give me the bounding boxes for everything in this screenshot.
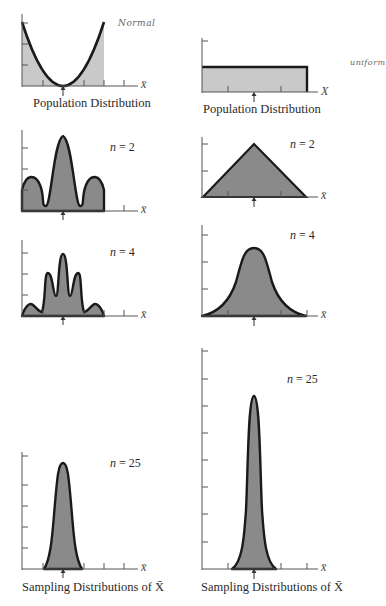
left-n25-curve: [44, 463, 82, 569]
x-axis-label: x̄: [321, 188, 326, 203]
x-axis-label: x̄: [141, 202, 146, 217]
x-axis-label: x̄: [141, 560, 146, 575]
annotation-uniform: uniform: [350, 58, 386, 67]
sample-size-label: n = 4: [110, 245, 135, 260]
x-axis-label: x̄: [141, 307, 146, 322]
right-n4-curve: [202, 248, 306, 316]
sample-size-label: n = 2: [110, 140, 135, 155]
mean-arrow-icon: [61, 86, 66, 96]
mean-arrow-icon: [61, 569, 66, 578]
sample-size-label: n = 2: [290, 137, 315, 152]
annotation-normal: Normal: [118, 18, 155, 28]
caption-left-sampling: Sampling Distributions of X̄: [22, 580, 164, 595]
caption-right-sampling: Sampling Distributions of X̄: [201, 580, 343, 595]
x-axis-label: x̄: [321, 307, 326, 322]
caption-right-population: Population Distribution: [203, 102, 321, 117]
sample-size-label: n = 4: [290, 228, 315, 243]
mean-arrow-icon: [252, 92, 257, 102]
mean-arrow-icon: [61, 211, 66, 220]
mean-arrow-icon: [252, 197, 257, 207]
right-n25-curve: [232, 396, 276, 569]
right-population-plot: [202, 38, 318, 102]
x-axis-label: X: [321, 84, 328, 99]
sample-size-label: n = 25: [110, 456, 141, 471]
sample-size-label: n = 25: [287, 372, 318, 387]
x-axis-label: x̄: [141, 77, 146, 92]
left-n4-curve: [22, 254, 104, 316]
caption-left-population: Population Distribution: [33, 96, 151, 111]
mean-arrow-icon: [252, 316, 257, 326]
x-axis-label: x̄: [321, 560, 326, 575]
mean-arrow-icon: [61, 316, 66, 325]
left-n2-curve: [22, 136, 104, 211]
mean-arrow-icon: [252, 569, 257, 579]
